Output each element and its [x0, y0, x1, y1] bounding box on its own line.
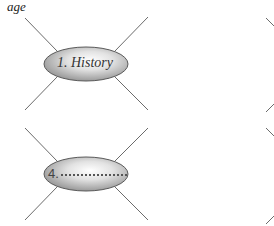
spoke-partial	[266, 18, 274, 28]
fill-in-blank-line[interactable]	[61, 174, 127, 176]
spoke-partial	[266, 102, 274, 112]
spoke-bottom-right	[115, 187, 148, 220]
partial-diagram-right-top	[266, 18, 274, 112]
spoke-top-right	[115, 17, 148, 51]
spoke-partial	[266, 128, 274, 138]
spider-diagram-canvas	[0, 0, 274, 226]
spoke-bottom-left	[25, 187, 57, 220]
diagram-1-label: 1. History	[57, 55, 113, 71]
spoke-bottom-right	[115, 77, 148, 110]
spoke-partial	[266, 214, 274, 224]
spoke-top-right	[115, 128, 148, 161]
spoke-top-left	[25, 18, 57, 51]
spoke-top-left	[25, 128, 57, 161]
partial-diagram-right-bottom	[266, 128, 274, 224]
diagram-4-number: 4.	[48, 166, 59, 181]
diagram-4-label[interactable]: 4.	[48, 166, 127, 181]
spoke-bottom-left	[25, 77, 57, 110]
